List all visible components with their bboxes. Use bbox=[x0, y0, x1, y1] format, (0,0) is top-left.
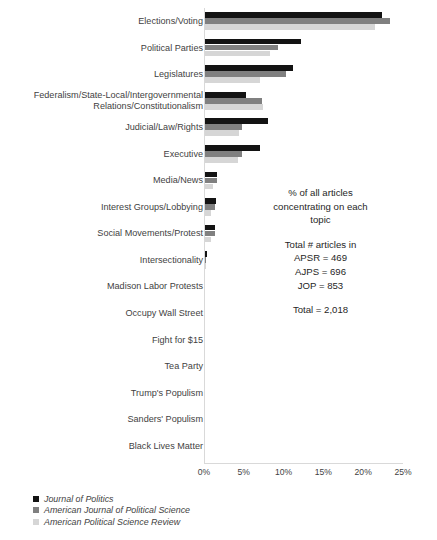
bar-1 bbox=[205, 45, 278, 51]
bar-group bbox=[205, 380, 437, 407]
bar-group bbox=[205, 88, 437, 115]
category-row: Elections/Voting bbox=[0, 8, 437, 35]
annotation-spacer-2 bbox=[238, 292, 403, 303]
category-label: Judicial/Law/Rights bbox=[0, 122, 203, 133]
category-label: Political Parties bbox=[0, 43, 203, 54]
category-label: Fight for $15 bbox=[0, 335, 203, 346]
category-row: Black Lives Matter bbox=[0, 433, 437, 460]
category-label: Trump's Populism bbox=[0, 388, 203, 399]
bar-2 bbox=[205, 104, 263, 110]
annotation-description: % of all articlesconcentrating on eachto… bbox=[238, 186, 403, 227]
x-axis-tick: 0% bbox=[184, 467, 224, 477]
category-label: Occupy Wall Street bbox=[0, 308, 203, 319]
legend-item[interactable]: American Political Science Review bbox=[33, 516, 333, 528]
bar-group bbox=[205, 327, 437, 354]
category-label: Intersectionality bbox=[0, 255, 203, 266]
bar-group bbox=[205, 141, 437, 168]
bar-2 bbox=[205, 51, 270, 57]
bar-group bbox=[205, 35, 437, 62]
bar-group bbox=[205, 406, 437, 433]
chart-annotation: % of all articlesconcentrating on eachto… bbox=[238, 186, 403, 317]
bar-0 bbox=[205, 172, 217, 178]
category-label: Interest Groups/Lobbying bbox=[0, 202, 203, 213]
bar-0 bbox=[205, 39, 301, 45]
x-axis: 0%5%10%15%20%25% bbox=[0, 463, 437, 485]
chart-legend: Journal of PoliticsAmerican Journal of P… bbox=[33, 493, 333, 528]
annotation-total-line: JOP = 853 bbox=[238, 279, 403, 293]
category-row: Executive bbox=[0, 141, 437, 168]
bar-2 bbox=[205, 263, 206, 269]
bar-0 bbox=[205, 198, 216, 204]
category-row: Sanders' Populism bbox=[0, 406, 437, 433]
bar-1 bbox=[205, 71, 286, 77]
category-row: Trump's Populism bbox=[0, 380, 437, 407]
bar-group bbox=[205, 8, 437, 35]
bar-group bbox=[205, 61, 437, 88]
category-row: Tea Party bbox=[0, 353, 437, 380]
bar-0 bbox=[205, 145, 260, 151]
category-label: Sanders' Populism bbox=[0, 414, 203, 425]
annotation-totals: Total # articles inAPSR = 469AJPS = 696J… bbox=[238, 238, 403, 292]
annotation-total-line: APSR = 469 bbox=[238, 251, 403, 265]
x-axis-line bbox=[204, 463, 403, 464]
bar-chart: Elections/VotingPolitical PartiesLegisla… bbox=[0, 0, 437, 540]
category-label: Media/News bbox=[0, 175, 203, 186]
x-axis-tick: 10% bbox=[264, 467, 304, 477]
bar-0 bbox=[205, 225, 215, 231]
bar-2 bbox=[205, 237, 211, 243]
legend-item[interactable]: American Journal of Political Science bbox=[33, 505, 333, 517]
bar-2 bbox=[205, 24, 375, 30]
annotation-line: % of all articles bbox=[238, 186, 403, 200]
legend-swatch-icon bbox=[33, 507, 39, 513]
category-row: Federalism/State-Local/Intergovernmental… bbox=[0, 88, 437, 115]
plot-area: Elections/VotingPolitical PartiesLegisla… bbox=[0, 0, 437, 470]
category-label: Tea Party bbox=[0, 361, 203, 372]
bar-1 bbox=[205, 151, 242, 157]
legend-swatch-icon bbox=[33, 496, 39, 502]
category-label: Elections/Voting bbox=[0, 16, 203, 27]
legend-label: Journal of Politics bbox=[44, 494, 114, 504]
x-axis-tick: 25% bbox=[383, 467, 423, 477]
category-label: Legislatures bbox=[0, 69, 203, 80]
annotation-spacer-1 bbox=[238, 227, 403, 238]
annotation-total-line: AJPS = 696 bbox=[238, 265, 403, 279]
bar-1 bbox=[205, 204, 215, 210]
category-row: Legislatures bbox=[0, 61, 437, 88]
bar-1 bbox=[205, 257, 206, 263]
bar-group bbox=[205, 353, 437, 380]
bar-2 bbox=[205, 184, 213, 190]
bar-0 bbox=[205, 118, 268, 124]
bar-group bbox=[205, 433, 437, 460]
category-row: Judicial/Law/Rights bbox=[0, 114, 437, 141]
annotation-line: concentrating on each bbox=[238, 200, 403, 214]
bar-1 bbox=[205, 18, 390, 24]
bar-0 bbox=[205, 251, 207, 257]
bar-1 bbox=[205, 178, 217, 184]
bar-1 bbox=[205, 124, 242, 130]
category-label: Executive bbox=[0, 149, 203, 160]
annotation-grand-total: Total = 2,018 bbox=[238, 303, 403, 317]
bar-group bbox=[205, 114, 437, 141]
legend-swatch-icon bbox=[33, 519, 39, 525]
category-label: Social Movements/Protest bbox=[0, 228, 203, 239]
annotation-line: topic bbox=[238, 213, 403, 227]
bar-0 bbox=[205, 12, 382, 18]
x-axis-tick: 15% bbox=[303, 467, 343, 477]
category-row: Political Parties bbox=[0, 35, 437, 62]
legend-label: American Political Science Review bbox=[44, 517, 180, 527]
bar-2 bbox=[205, 77, 260, 83]
annotation-total-line: Total # articles in bbox=[238, 238, 403, 252]
legend-item[interactable]: Journal of Politics bbox=[33, 493, 333, 505]
x-axis-tick: 20% bbox=[343, 467, 383, 477]
category-row: Fight for $15 bbox=[0, 327, 437, 354]
x-axis-tick: 5% bbox=[224, 467, 264, 477]
bar-0 bbox=[205, 92, 246, 98]
bar-0 bbox=[205, 65, 293, 71]
bar-1 bbox=[205, 231, 215, 237]
category-label: Madison Labor Protests bbox=[0, 281, 203, 292]
category-label: Black Lives Matter bbox=[0, 441, 203, 452]
bar-2 bbox=[205, 157, 238, 163]
bar-2 bbox=[205, 130, 239, 136]
bar-1 bbox=[205, 98, 262, 104]
category-label: Federalism/State-Local/Intergovernmental… bbox=[0, 90, 203, 111]
